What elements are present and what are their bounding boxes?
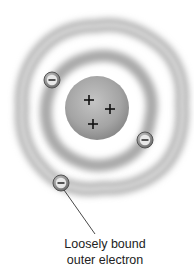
electron-1 xyxy=(44,72,60,88)
label-leader-line xyxy=(64,190,95,234)
electron-label: Loosely bound outer electron xyxy=(40,236,170,268)
label-line-1: Loosely bound xyxy=(40,236,170,252)
nucleus xyxy=(65,76,129,140)
electron-3-loosely-bound xyxy=(53,175,69,191)
electron-2 xyxy=(137,132,153,148)
label-line-2: outer electron xyxy=(40,252,170,268)
